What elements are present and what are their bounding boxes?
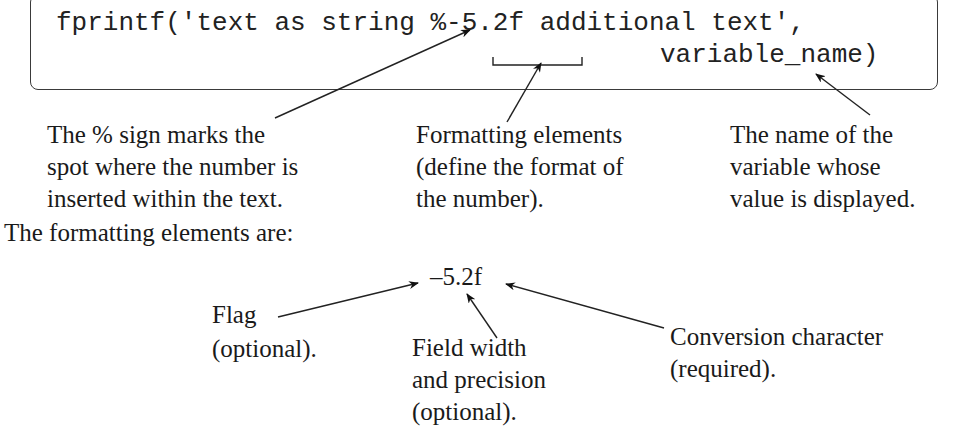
- arrow-conversion: [506, 284, 664, 328]
- arrow-field-width: [467, 294, 497, 338]
- subheading: The formatting elements are:: [4, 218, 293, 248]
- arrow-flag: [278, 283, 418, 317]
- code-line-1: fprintf('text as string %-5.2f additiona…: [56, 8, 805, 38]
- format-spec: –5.2f: [430, 262, 482, 292]
- code-line-2: variable_name): [660, 40, 878, 70]
